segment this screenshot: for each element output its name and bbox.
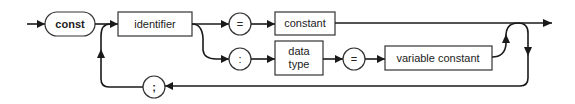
variable-constant-label: variable constant bbox=[396, 52, 479, 64]
equals-2-arrow bbox=[335, 55, 343, 63]
datatype-arrow bbox=[267, 55, 275, 63]
exit-arrow bbox=[543, 19, 552, 27]
equals-1-arrow bbox=[221, 20, 229, 28]
equals-1-label: = bbox=[237, 18, 243, 30]
identifier-to-colon-branch bbox=[192, 24, 229, 59]
colon-arrow bbox=[221, 55, 229, 63]
const-label: const bbox=[55, 18, 85, 30]
constant-arrow bbox=[267, 20, 275, 28]
constant-label: constant bbox=[284, 17, 326, 29]
semicolon-label: ; bbox=[152, 81, 156, 93]
merge-up-arrow bbox=[502, 34, 510, 43]
return-up-arrow bbox=[97, 49, 105, 58]
varconst-arrow bbox=[377, 55, 385, 63]
loop-down-arrow bbox=[524, 47, 532, 56]
colon-label: : bbox=[238, 53, 241, 65]
identifier-label: identifier bbox=[134, 18, 176, 30]
data-type-label-line2: type bbox=[289, 58, 310, 70]
data-type-label-line1: data bbox=[288, 45, 310, 57]
semicolon-arrow bbox=[165, 82, 173, 90]
equals-2-label: = bbox=[351, 53, 357, 65]
const-syntax-diagram: const identifier = constant : data type … bbox=[0, 0, 575, 104]
entry-arrow bbox=[37, 20, 45, 28]
identifier-arrow bbox=[110, 20, 118, 28]
